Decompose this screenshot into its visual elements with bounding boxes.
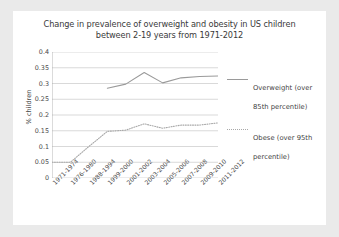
legend-item-obese: Obese (over 95th percentile) [227, 125, 325, 163]
screenshot-frame: Change in prevalence of overweight and o… [0, 0, 339, 237]
y-tick-label: 0 [45, 174, 49, 182]
plot-area: 00.050.10.150.20.250.30.350.4 1971-19741… [52, 52, 218, 178]
legend-label-obese: Obese (over 95th percentile) [253, 134, 312, 161]
legend-item-overweight: Overweight (over 85th percentile) [227, 75, 325, 113]
legend-line-dotted-icon [227, 129, 248, 130]
y-tick-label: 0.4 [39, 48, 49, 56]
y-tick-label: 0.2 [39, 111, 49, 119]
chart-title: Change in prevalence of overweight and o… [13, 19, 326, 41]
chart-title-line1: Change in prevalence of overweight and o… [44, 19, 296, 29]
y-axis-label: % children [25, 77, 33, 137]
y-tick-label: 0.25 [35, 95, 49, 103]
chart-svg [52, 52, 218, 178]
y-tick-label: 0.15 [35, 127, 49, 135]
chart-legend: Overweight (over 85th percentile) Obese … [227, 75, 325, 175]
y-tick-label: 0.1 [39, 143, 49, 151]
chart-title-line2: between 2-19 years from 1971-2012 [13, 30, 326, 41]
y-tick-label: 0.05 [35, 158, 49, 166]
y-tick-label: 0.35 [35, 64, 49, 72]
series-lines [52, 72, 218, 162]
legend-label-overweight: Overweight (over 85th percentile) [253, 84, 312, 111]
gridlines [52, 52, 218, 178]
y-tick-label: 0.3 [39, 80, 49, 88]
legend-line-solid-icon [227, 79, 248, 80]
chart-card: Change in prevalence of overweight and o… [13, 11, 326, 225]
